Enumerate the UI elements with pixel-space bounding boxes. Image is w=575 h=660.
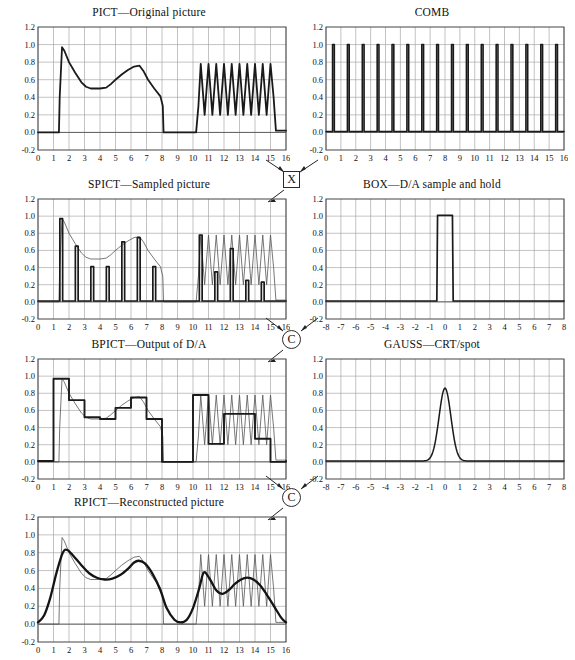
y-tick-label: -0.2: [310, 145, 323, 155]
x-tick-label: -7: [337, 322, 344, 332]
x-tick-label: 4: [383, 153, 388, 163]
x-tick-label: 8: [443, 153, 447, 163]
x-tick-label: 3: [82, 482, 86, 492]
panel-gauss: GAUSS—CRT/spot -8-7-6-5-4-3-2-1012345678…: [296, 338, 568, 496]
y-tick-label: 0.0: [312, 127, 323, 137]
x-tick-label: 3: [82, 645, 86, 655]
y-tick-label: 0.2: [24, 440, 35, 450]
x-tick-label: 14: [251, 482, 260, 492]
x-tick-label: 8: [562, 482, 566, 492]
x-tick-label: 3: [369, 153, 373, 163]
panel-title-comb: COMB: [296, 6, 568, 18]
panel-title-rpict: RPICT—Reconstructed picture: [8, 496, 290, 508]
x-tick-label: 10: [189, 645, 198, 655]
x-tick-label: 13: [515, 153, 524, 163]
x-tick-label: 2: [67, 482, 71, 492]
x-tick-label: 13: [235, 153, 244, 163]
x-tick-label: 3: [488, 482, 492, 492]
y-tick-label: 0.6: [312, 75, 323, 85]
y-tick-label: 0.0: [24, 297, 35, 307]
y-tick-label: 0.8: [24, 548, 35, 558]
x-tick-label: 9: [458, 153, 462, 163]
x-tick-label: 2: [473, 322, 477, 332]
y-tick-label: 1.0: [24, 40, 35, 50]
x-tick-label: 4: [98, 322, 103, 332]
x-tick-label: 11: [204, 645, 212, 655]
y-tick-label: 0.8: [24, 57, 35, 67]
x-tick-label: 14: [251, 153, 260, 163]
panel-pict: PICT—Original picture 012345678910111213…: [8, 6, 290, 166]
x-tick-label: 6: [413, 153, 417, 163]
x-tick-label: 4: [98, 482, 103, 492]
x-tick-label: 7: [547, 322, 551, 332]
x-tick-label: 13: [235, 482, 244, 492]
x-tick-label: 2: [67, 322, 71, 332]
plot-svg-rpict: 0123456789101112131415161.21.00.80.60.40…: [8, 513, 290, 658]
y-tick-label: 0.8: [312, 388, 323, 398]
x-tick-label: 7: [547, 482, 551, 492]
x-tick-label: 3: [82, 322, 86, 332]
y-tick-label: 0.8: [312, 228, 323, 238]
y-tick-label: 1.2: [312, 23, 323, 32]
plot-pict: 0123456789101112131415161.21.00.80.60.40…: [8, 23, 290, 166]
x-tick-label: 5: [517, 482, 521, 492]
panel-title-bpict: BPICT—Output of D/A: [8, 338, 290, 350]
y-tick-label: 0.8: [24, 228, 35, 238]
x-tick-label: 9: [175, 645, 179, 655]
x-tick-label: 7: [144, 153, 148, 163]
x-tick-label: 16: [282, 645, 290, 655]
x-tick-label: 6: [129, 645, 133, 655]
y-tick-label: 0.4: [312, 423, 323, 433]
x-tick-label: -6: [352, 322, 359, 332]
plot-svg-comb: 0123456789101112131415161.21.00.80.60.40…: [296, 23, 568, 166]
y-tick-label: 0.6: [24, 566, 35, 576]
y-tick-label: 1.2: [24, 355, 35, 364]
y-tick-label: 0.8: [312, 57, 323, 67]
y-tick-label: 0.8: [24, 388, 35, 398]
x-tick-label: 1: [51, 322, 55, 332]
panel-title-box: BOX—D/A sample and hold: [296, 178, 568, 190]
x-tick-label: 6: [532, 322, 536, 332]
y-tick-label: 0.0: [24, 619, 35, 629]
x-tick-label: 1: [51, 482, 55, 492]
x-tick-label: 14: [251, 645, 260, 655]
y-tick-label: 0.6: [24, 75, 35, 85]
y-tick-label: 1.2: [312, 355, 323, 364]
x-tick-label: 11: [204, 322, 212, 332]
plot-bpict: 0123456789101112131415161.21.00.80.60.40…: [8, 355, 290, 495]
y-tick-label: 0.6: [312, 405, 323, 415]
y-tick-label: 1.2: [24, 23, 35, 32]
x-tick-label: -6: [352, 482, 359, 492]
x-tick-label: 0: [443, 482, 447, 492]
y-tick-label: 0.0: [312, 457, 323, 467]
x-tick-label: 4: [98, 645, 103, 655]
y-tick-label: 0.4: [24, 423, 35, 433]
x-tick-label: 12: [220, 153, 229, 163]
x-tick-label: 1: [339, 153, 343, 163]
x-tick-label: 15: [266, 645, 275, 655]
x-tick-label: -5: [367, 482, 374, 492]
x-tick-label: 2: [354, 153, 358, 163]
plot-svg-gauss: -8-7-6-5-4-3-2-10123456781.21.00.80.60.4…: [296, 355, 568, 495]
y-tick-label: 0.0: [24, 127, 35, 137]
panel-title-spict: SPICT—Sampled picture: [8, 178, 290, 190]
y-tick-label: 0.6: [312, 245, 323, 255]
y-tick-label: 1.0: [312, 211, 323, 221]
x-tick-label: 2: [67, 645, 71, 655]
x-tick-label: -3: [397, 322, 404, 332]
x-tick-label: 1: [458, 322, 462, 332]
panel-bpict: BPICT—Output of D/A 01234567891011121314…: [8, 338, 290, 496]
x-tick-label: 8: [160, 322, 164, 332]
x-tick-label: 6: [532, 482, 536, 492]
panel-title-gauss: GAUSS—CRT/spot: [296, 338, 568, 350]
y-tick-label: 1.0: [312, 371, 323, 381]
x-tick-label: 4: [502, 322, 507, 332]
x-tick-label: 10: [471, 153, 480, 163]
x-tick-label: 12: [500, 153, 509, 163]
x-tick-label: 16: [560, 153, 568, 163]
y-tick-label: 0.2: [312, 110, 323, 120]
plot-svg-box: -8-7-6-5-4-3-2-10123456781.21.00.80.60.4…: [296, 195, 568, 335]
x-tick-label: 13: [235, 322, 244, 332]
x-tick-label: 5: [113, 153, 117, 163]
x-tick-label: 4: [98, 153, 103, 163]
